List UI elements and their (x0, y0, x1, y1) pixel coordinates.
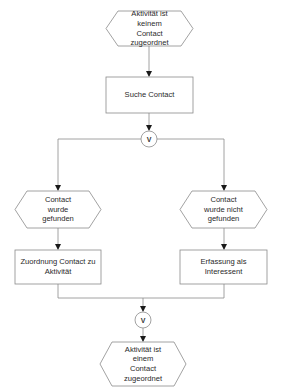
notfound-event-label: Contact wurde nicht gefunden (180, 191, 267, 228)
edge-split-to-found (58, 139, 141, 190)
end-event-label: Aktivität ist einem Contact zugeordnet (100, 341, 186, 387)
found-event-label: Contact wurde gefunden (15, 191, 101, 228)
edge-split-to-notfound (157, 139, 224, 190)
edge-assign-to-join (58, 284, 224, 298)
split-connector-label: V (141, 131, 157, 147)
start-event-label: Aktivität ist keinem Contact zugeordnet (106, 9, 193, 48)
search-function-label: Suche Contact (106, 77, 193, 113)
join-connector-label: V (135, 312, 151, 328)
assign-function-label: Zuordnung Contact zu Aktivität (15, 250, 101, 284)
register-function-label: Erfassung als Interessent (180, 250, 267, 284)
